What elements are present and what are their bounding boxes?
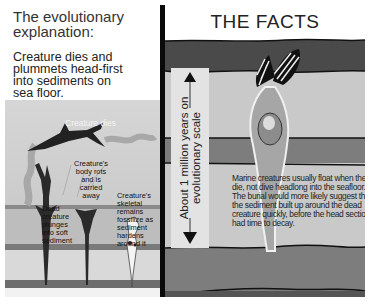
label-line: away [73,192,109,200]
facts-paragraph: Marine creatures usually float when they… [232,174,365,228]
scale-line: About 1 million years on [178,97,190,220]
evolutionary-explanation-panel: The evolutionary explanation: Creature d… [5,5,161,297]
time-scale-label: About 1 million years on evolutionary sc… [178,97,202,220]
label-dead-plunges: Dead creature plunges into soft sediment [42,205,80,245]
label-body-rots: Creature's body rots and is carried away [73,160,109,200]
scale-line: evolutionary scale [190,97,202,220]
evolution-illustration [5,5,161,297]
label-creature-dies: Creature dies [65,119,116,127]
label-line: around it [117,240,161,248]
label-line: sediment [42,237,80,245]
label-skeletal-remains: Creature's skeletal remains fossilize as… [117,192,161,248]
facts-panel: THE FACTS About 1 million years on ev [165,5,365,297]
